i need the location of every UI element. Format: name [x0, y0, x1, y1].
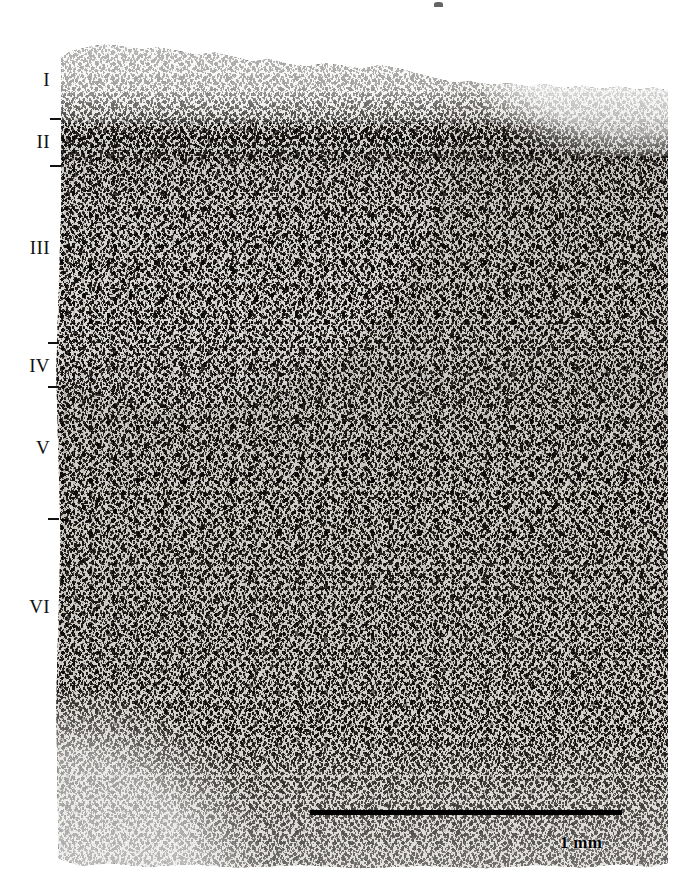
layer-label-ii: II	[2, 132, 50, 151]
layer-label-vi: VI	[2, 597, 50, 616]
layer-tick-v-vi	[48, 518, 59, 520]
cortex-tissue-section	[55, 40, 668, 870]
layer-tick-i-ii	[50, 118, 61, 120]
crop-artifact	[434, 2, 443, 7]
film-grain-overlay	[55, 40, 668, 870]
layer-label-iv: IV	[2, 356, 50, 375]
micrograph-figure: I II III IV V VI 1 mm	[0, 0, 682, 885]
layer-tick-ii-iii	[50, 165, 61, 167]
layer-tick-iii-iv	[48, 342, 59, 344]
scale-bar	[310, 810, 622, 815]
layer-label-i: I	[2, 70, 50, 89]
layer-label-v: V	[2, 438, 50, 457]
layer-tick-iv-v	[48, 386, 59, 388]
layer-label-iii: III	[2, 238, 50, 257]
scale-bar-label: 1 mm	[560, 833, 602, 853]
